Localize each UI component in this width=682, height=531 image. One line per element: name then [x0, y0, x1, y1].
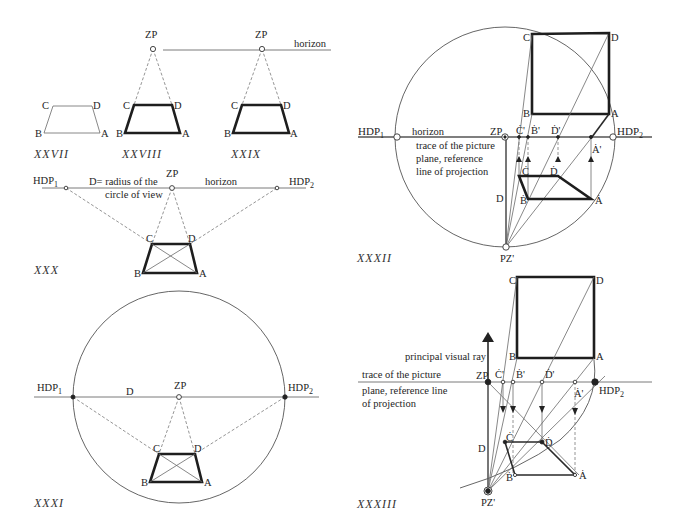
label-zp: ZP [145, 29, 157, 40]
figure-xxvii: C D B A XXVII [33, 100, 109, 161]
label-a: A [182, 128, 190, 139]
label-d: D [188, 233, 196, 244]
label-persp-b: Ḃ [520, 195, 527, 206]
zp-point [177, 395, 182, 400]
label-plan-d: D [611, 32, 619, 43]
label-persp-b: Ḃ [506, 472, 513, 483]
label-d-distance: D [496, 193, 504, 204]
figure-caption: XXX [33, 263, 59, 277]
label-zp: ZP [476, 370, 488, 381]
label-c-prime: Ċ' [495, 369, 504, 380]
label-b: B [35, 128, 42, 139]
label-c: C [123, 100, 130, 111]
label-plan-c: C [523, 32, 530, 43]
perspective-floor [505, 442, 575, 475]
label-trace-2: plane, reference [416, 153, 483, 164]
label-hdp2: HDP2 [599, 385, 624, 399]
label-horizon: horizon [294, 38, 327, 49]
label-trace-3: of projection [362, 398, 417, 409]
label-pz: PZ' [481, 497, 495, 508]
label-hdp1: HDP1 [37, 382, 62, 396]
label-d-prime: Ḋ' [551, 125, 561, 136]
zp-point [170, 186, 175, 191]
figure-xxxii: HDP1 HDP2 horizon ZP PZ' trace of the pi… [356, 27, 652, 265]
label-c: C [153, 443, 160, 454]
figure-caption: XXIX [230, 147, 261, 161]
label-horizon: horizon [412, 126, 445, 137]
label-b: B [141, 477, 148, 488]
figure-caption: XXVIII [121, 147, 162, 161]
label-trace-1: trace of the picture [362, 369, 441, 380]
label-a-prime: Ȧ' [592, 144, 602, 155]
figure-caption: XXXI [33, 496, 64, 510]
label-a: A [204, 477, 212, 488]
trapezoid-xxviii [125, 105, 180, 133]
label-d-distance: D [478, 443, 486, 454]
label-d-prime: Ḋ' [545, 369, 555, 380]
label-d-note-1: D= radius of the [89, 176, 158, 187]
trapezoid-xxvii [44, 106, 100, 133]
pz-point [503, 244, 509, 250]
figure-caption: XXVII [33, 147, 69, 161]
label-d: D [194, 443, 202, 454]
label-persp-a: Ȧ [579, 470, 587, 481]
label-b-prime: Ḃ' [531, 125, 540, 136]
label-zp: ZP [255, 29, 267, 40]
label-persp-d: Ḋ [545, 437, 553, 448]
label-hdp1: HDP1 [33, 175, 58, 189]
label-hdp2: HDP2 [288, 382, 313, 396]
label-a-prime: Ȧ' [574, 388, 584, 399]
label-d: D [283, 100, 291, 111]
plan-square [517, 277, 594, 358]
zp-point [259, 46, 264, 51]
label-c: C [231, 100, 238, 111]
label-trace-1: trace of the picture [416, 140, 495, 151]
figure-xxix: horizon ZP C D B A XXIX [163, 29, 331, 161]
label-plan-b: B [509, 351, 516, 362]
label-a: A [290, 128, 298, 139]
label-pz: PZ' [500, 253, 514, 264]
figure-caption: XXXIII [356, 497, 397, 511]
figure-xxviii: ZP C D B A XXVIII [116, 29, 190, 161]
label-zp: ZP [166, 168, 178, 179]
label-plan-d: D [596, 275, 604, 286]
figure-xxxiii: principal visual ray trace of the pictur… [356, 275, 652, 511]
label-b: B [116, 128, 123, 139]
label-horizon: horizon [205, 176, 238, 187]
hdp2-point [283, 395, 287, 399]
hdp2-point [592, 379, 598, 385]
hdp1-point [71, 395, 75, 399]
label-c: C [146, 233, 153, 244]
label-c: C [42, 100, 49, 111]
hdp1-point [64, 186, 68, 190]
perspective-construction-plate: C D B A XXVII ZP C D B A XXVIII horizon … [0, 0, 682, 531]
label-plan-a: A [596, 351, 604, 362]
label-zp: ZP [490, 126, 502, 137]
label-plan-b: B [523, 108, 530, 119]
label-principal-ray: principal visual ray [405, 351, 487, 362]
figure-caption: XXXII [356, 251, 392, 265]
label-trace-2: plane, reference line [362, 385, 448, 396]
label-d: D [174, 100, 182, 111]
label-plan-c: C [509, 275, 516, 286]
label-persp-c: Ċ [522, 166, 529, 177]
label-trace-3: line of projection [416, 166, 489, 177]
trapezoid-xxx [143, 244, 197, 273]
label-a: A [199, 268, 207, 279]
plan-square [532, 33, 609, 114]
label-b: B [224, 128, 231, 139]
hdp1-point [394, 134, 400, 140]
figure-xxxi: HDP1 HDP2 ZP D C D B A XXXI [33, 291, 319, 510]
trapezoid-xxix [233, 105, 289, 133]
label-a: A [101, 128, 109, 139]
label-b-prime: Ḃ' [516, 369, 525, 380]
hdp2-point [610, 134, 616, 140]
label-b: B [134, 268, 141, 279]
label-persp-a: Ȧ [595, 195, 603, 206]
figure-xxx: HDP1 HDP2 ZP horizon D= radius of the ci… [33, 168, 314, 279]
perspective-floor [519, 176, 591, 199]
zp-point [150, 46, 155, 51]
arrow-up-icon [482, 332, 494, 342]
hdp2-point [275, 186, 279, 190]
label-c-prime: Ċ' [516, 125, 525, 136]
